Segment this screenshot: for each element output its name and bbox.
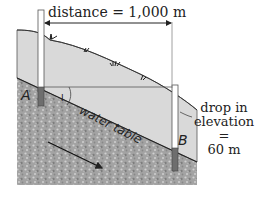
groundwater-diagram [0, 0, 259, 198]
drop-line-1: drop in [193, 101, 255, 115]
well-b-label: B [178, 133, 188, 147]
well-a-label: A [21, 88, 31, 102]
drop-line-2: elevation = [193, 115, 255, 143]
well-a-casing [38, 10, 44, 90]
angle-label: I [61, 94, 64, 103]
drop-in-elevation-label: drop in elevation = 60 m [193, 101, 255, 157]
distance-label: distance = 1,000 m [48, 5, 186, 19]
drop-line-3: 60 m [193, 143, 255, 157]
well-a-screen [38, 87, 44, 106]
well-b-screen [172, 148, 178, 171]
